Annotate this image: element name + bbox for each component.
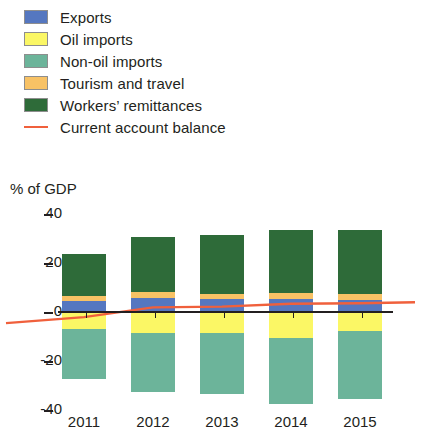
x-axis-label: 2012 xyxy=(123,413,183,430)
legend-label-non-oil-imports: Non-oil imports xyxy=(60,54,162,69)
legend-item-workers-remittances: Workers’ remittances xyxy=(24,94,414,116)
legend-item-tourism-and-travel: Tourism and travel xyxy=(24,72,414,94)
x-axis-tick xyxy=(86,313,87,318)
legend-swatch-tourism-and-travel-icon xyxy=(24,76,48,90)
chart-plot-area: 40200-20-40 20112012201320142015 xyxy=(0,205,421,437)
legend-swatch-oil-imports-icon xyxy=(24,32,48,46)
legend-label-current-account-balance: Current account balance xyxy=(60,120,226,135)
x-axis-label: 2013 xyxy=(192,413,252,430)
legend-swatch-non-oil-imports-icon xyxy=(24,54,48,68)
legend-swatch-workers-remittances-icon xyxy=(24,98,48,112)
legend-item-exports: Exports xyxy=(24,6,414,28)
x-axis-label: 2011 xyxy=(54,413,114,430)
legend-label-tourism-and-travel: Tourism and travel xyxy=(60,76,184,91)
legend-item-oil-imports: Oil imports xyxy=(24,28,414,50)
x-axis-tick xyxy=(155,313,156,318)
legend-item-current-account-balance: Current account balance xyxy=(24,116,414,138)
x-axis-label: 2015 xyxy=(330,413,390,430)
x-axis-tick xyxy=(293,313,294,318)
current-account-balance-line xyxy=(0,205,421,437)
x-axis-tick xyxy=(362,313,363,318)
zero-axis-line xyxy=(58,311,393,313)
legend-label-workers-remittances: Workers’ remittances xyxy=(60,98,202,113)
legend-item-non-oil-imports: Non-oil imports xyxy=(24,50,414,72)
x-axis-tick xyxy=(224,313,225,318)
x-axis-label: 2014 xyxy=(261,413,321,430)
legend-label-oil-imports: Oil imports xyxy=(60,32,133,47)
legend-line-current-account-balance-icon xyxy=(24,120,48,134)
legend-label-exports: Exports xyxy=(60,10,112,25)
legend-swatch-exports-icon xyxy=(24,10,48,24)
y-axis-title: % of GDP xyxy=(10,180,77,197)
chart-legend: Exports Oil imports Non-oil imports Tour… xyxy=(24,6,414,138)
